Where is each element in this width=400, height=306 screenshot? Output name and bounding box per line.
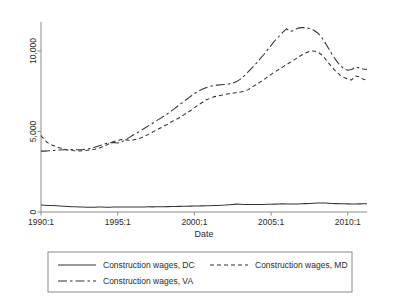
x-axis-tick-label: 1995:1 — [105, 217, 131, 227]
series-line-md — [41, 51, 367, 151]
legend-label-md: Construction wages, MD — [255, 260, 348, 270]
y-axis-tick-label: 10,000 — [28, 38, 38, 64]
legend-box — [48, 252, 352, 292]
line-chart: 05,00010,0001990:11995:12000:12005:12010… — [0, 0, 400, 306]
chart-figure: 05,00010,0001990:11995:12000:12005:12010… — [0, 0, 400, 306]
x-axis-tick-label: 2005:1 — [258, 217, 284, 227]
legend-label-va: Construction wages, VA — [103, 276, 193, 286]
y-axis-tick-label: 0 — [28, 209, 38, 214]
x-axis-tick-label: 2000:1 — [181, 217, 207, 227]
x-axis-title: Date — [194, 229, 213, 239]
series-line-va — [41, 28, 367, 152]
x-axis-tick-label: 1990:1 — [28, 217, 54, 227]
x-axis-tick-label: 2010:1 — [335, 217, 361, 227]
legend-label-dc: Construction wages, DC — [103, 260, 195, 270]
series-line-dc — [41, 203, 367, 207]
y-axis-tick-label: 5,000 — [28, 121, 38, 143]
